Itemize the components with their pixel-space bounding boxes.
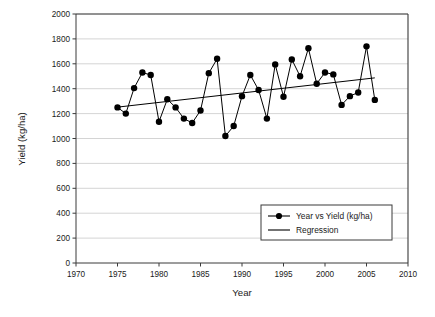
x-tick-label: 1980 xyxy=(150,270,169,279)
data-point xyxy=(314,81,320,87)
data-point xyxy=(347,93,353,99)
data-point xyxy=(372,97,378,103)
x-tick-label: 2005 xyxy=(357,270,376,279)
legend-marker-icon xyxy=(276,213,282,219)
data-point xyxy=(338,102,344,108)
legend-label-series: Year vs Yield (kg/ha) xyxy=(296,211,373,221)
data-point xyxy=(131,85,137,91)
y-tick-label: 1200 xyxy=(52,110,71,119)
y-tick-label: 600 xyxy=(56,184,70,193)
x-tick-label: 1975 xyxy=(108,270,127,279)
x-tick-label: 1970 xyxy=(67,270,86,279)
data-point xyxy=(289,56,295,62)
data-point xyxy=(363,43,369,49)
chart-legend[interactable]: Year vs Yield (kg/ha) Regression xyxy=(261,205,392,240)
data-point xyxy=(239,93,245,99)
y-tick-label: 400 xyxy=(56,209,70,218)
data-point xyxy=(264,115,270,121)
y-tick-label: 1800 xyxy=(52,35,71,44)
data-point xyxy=(156,118,162,124)
data-point xyxy=(181,115,187,121)
y-tick-label: 0 xyxy=(65,259,70,268)
x-tick-label: 1985 xyxy=(191,270,210,279)
chart-container: 0200400600800100012001400160018002000 19… xyxy=(0,0,435,317)
y-tick-label: 1400 xyxy=(52,85,71,94)
x-tick-label: 1995 xyxy=(274,270,293,279)
data-point xyxy=(305,45,311,51)
data-point xyxy=(114,104,120,110)
data-point xyxy=(164,96,170,102)
data-point xyxy=(148,72,154,78)
y-tick-label: 1000 xyxy=(52,135,71,144)
x-tick-label: 2010 xyxy=(399,270,418,279)
legend-label-regression: Regression xyxy=(296,225,339,235)
y-tick-label: 800 xyxy=(56,159,70,168)
data-point xyxy=(123,110,129,116)
data-point xyxy=(297,73,303,79)
y-tick-label: 200 xyxy=(56,234,70,243)
data-point xyxy=(231,123,237,129)
x-tick-label: 1990 xyxy=(233,270,252,279)
data-point xyxy=(355,89,361,95)
data-point xyxy=(206,70,212,76)
data-point xyxy=(197,107,203,113)
x-tick-label: 2000 xyxy=(316,270,335,279)
data-point xyxy=(280,94,286,100)
data-point xyxy=(172,104,178,110)
data-point xyxy=(189,120,195,126)
x-axis-title: Year xyxy=(232,287,252,298)
y-tick-label: 2000 xyxy=(52,10,71,19)
data-point xyxy=(247,72,253,78)
data-point xyxy=(330,71,336,77)
data-point xyxy=(322,69,328,75)
chart-svg: 0200400600800100012001400160018002000 19… xyxy=(0,0,435,317)
data-point xyxy=(272,61,278,67)
data-point xyxy=(214,56,220,62)
data-point xyxy=(222,133,228,139)
data-point xyxy=(139,69,145,75)
y-axis-title: Yield (kg/ha) xyxy=(16,112,27,166)
y-tick-label: 1600 xyxy=(52,60,71,69)
data-point xyxy=(255,87,261,93)
